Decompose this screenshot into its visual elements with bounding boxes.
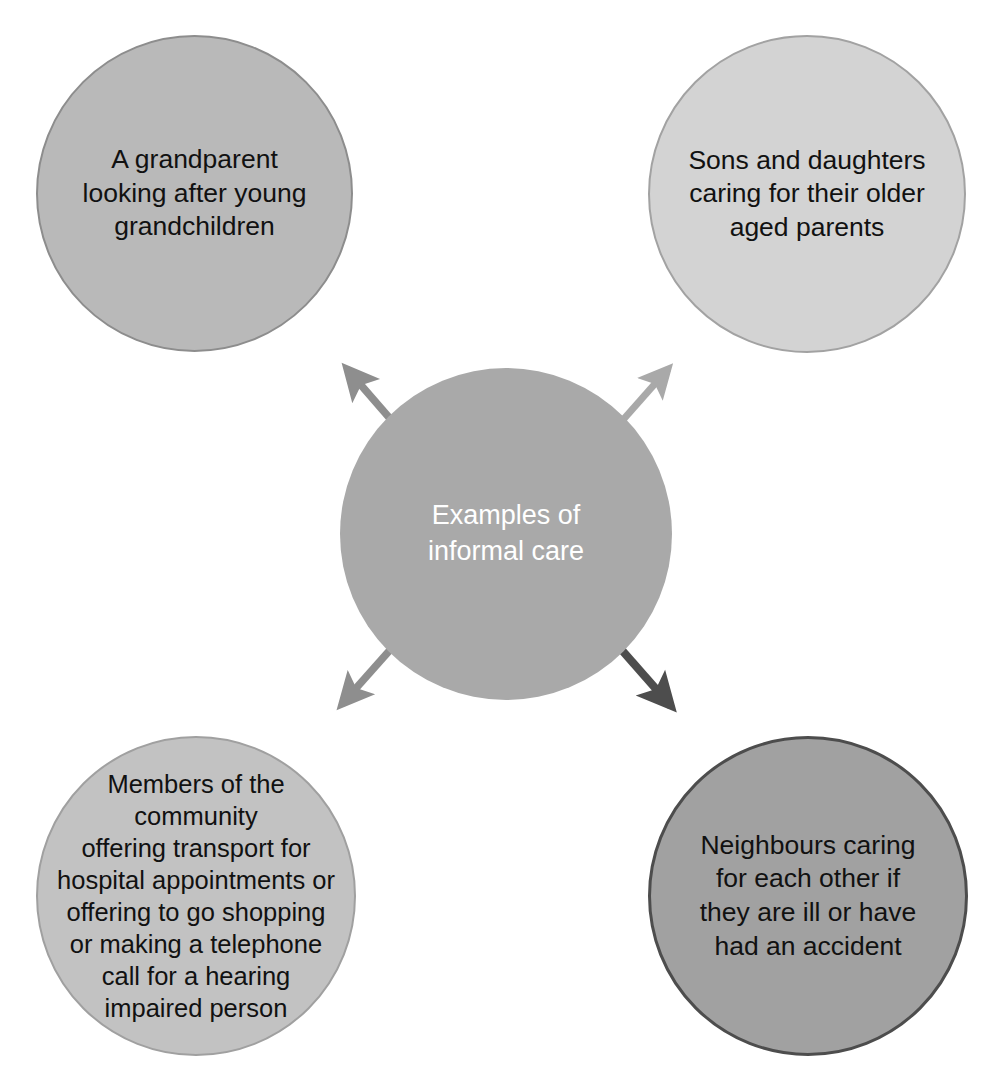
node-label-community: Members of the community offering transp… (51, 768, 341, 1024)
node-label-neighbours: Neighbours caring for each other if they… (694, 829, 923, 964)
node-circle-sons-daughters[interactable]: Sons and daughters caring for their olde… (648, 35, 966, 353)
node-circle-neighbours[interactable]: Neighbours caring for each other if they… (648, 736, 968, 1056)
node-label-center-hub: Examples of informal care (422, 498, 590, 569)
node-circle-grandparent[interactable]: A grandparent looking after young grandc… (36, 35, 353, 352)
arrow-to-community (342, 650, 390, 704)
node-label-grandparent: A grandparent looking after young grandc… (77, 143, 313, 244)
node-label-sons-daughters: Sons and daughters caring for their olde… (682, 144, 931, 245)
arrow-to-grandparent (347, 369, 393, 422)
arrow-to-neighbours (620, 648, 671, 706)
diagram-canvas: l y l A grandparent looking after young … (0, 0, 1004, 1083)
node-circle-community[interactable]: Members of the community offering transp… (36, 736, 356, 1056)
node-circle-center-hub[interactable]: Examples of informal care (340, 368, 672, 700)
arrow-to-sons-daughters (622, 369, 668, 421)
